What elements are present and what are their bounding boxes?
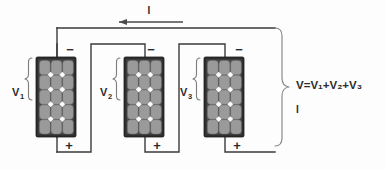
panel-2-voltage-subscript: 2	[108, 92, 112, 101]
panel-2-voltage-letter: V	[100, 86, 108, 98]
total-voltage-equation: V=V₁+V₂+V₃	[296, 79, 362, 91]
panel-3-voltage-label: V 3	[180, 86, 192, 101]
panel-1-negative-terminal: −	[66, 42, 74, 57]
panel-1-voltage-subscript: 1	[20, 92, 24, 101]
panel-2-brace	[113, 58, 120, 100]
panel-3-negative-terminal: −	[235, 42, 243, 57]
total-voltage-brace	[275, 28, 289, 146]
total-current-label: I	[296, 104, 299, 115]
panel-2-positive-terminal: +	[153, 138, 161, 153]
panel-3-cells	[208, 61, 242, 135]
panel-1-voltage-letter: V	[12, 86, 20, 98]
panel-1-brace	[25, 58, 32, 100]
panel-1	[36, 57, 76, 137]
panel-1-cells	[40, 61, 74, 135]
panel-1-positive-terminal: +	[65, 138, 73, 153]
current-label-top: I	[148, 5, 151, 16]
panel-3-positive-terminal: +	[233, 138, 241, 153]
panel-2	[124, 57, 164, 137]
panel-3-voltage-subscript: 3	[188, 92, 192, 101]
circuit-schematic-svg: I V 1 V 2 V 3 − − − + + + V=V₁+V₂+V₃ I	[0, 0, 386, 170]
panel-2-cells	[128, 61, 162, 135]
panel-3-voltage-letter: V	[180, 86, 188, 98]
panel-2-negative-terminal: −	[147, 42, 155, 57]
series-panel-circuit-diagram: I V 1 V 2 V 3 − − − + + + V=V₁+V₂+V₃ I	[0, 0, 386, 170]
panel-3	[204, 57, 244, 137]
panel-1-voltage-label: V 1	[12, 86, 24, 101]
current-arrow-group	[119, 19, 183, 25]
panel-3-brace	[193, 58, 200, 100]
panel-2-voltage-label: V 2	[100, 86, 112, 101]
current-arrow-head	[119, 19, 127, 25]
